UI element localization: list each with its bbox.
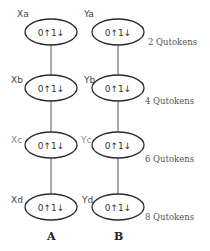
node-label-yc: Yc xyxy=(81,136,91,145)
node-state-yb: 0↑1↓ xyxy=(105,85,132,94)
node-state-xd: 0↑1↓ xyxy=(38,204,65,213)
node-state-yc: 0↑1↓ xyxy=(105,142,132,151)
node-label-xd: Xd xyxy=(11,196,23,205)
node-label-xb: Xb xyxy=(11,76,23,85)
row-label-8: 8 Qutokens xyxy=(145,213,194,222)
node-label-yd: Yd xyxy=(82,196,93,205)
column-label-b: B xyxy=(114,231,123,242)
node-label-xc: Xc xyxy=(11,136,22,145)
node-label-ya: Ya xyxy=(84,10,94,19)
node-state-xb: 0↑1↓ xyxy=(38,85,65,94)
row-label-6: 6 Qutokens xyxy=(145,155,194,164)
row-label-2: 2 Qutokens xyxy=(148,38,197,47)
column-label-a: A xyxy=(47,231,56,242)
node-state-ya: 0↑1↓ xyxy=(105,29,132,38)
node-label-yb: Yb xyxy=(84,76,95,85)
qutoken-diagram: Xa Xb Xc Xd Ya Yb Yc Yd 0↑1↓ 0↑1↓ 0↑1↓ 0… xyxy=(0,0,210,251)
row-label-4: 4 Qutokens xyxy=(145,97,194,106)
node-state-xc: 0↑1↓ xyxy=(38,142,65,151)
node-state-xa: 0↑1↓ xyxy=(38,29,65,38)
node-state-yd: 0↑1↓ xyxy=(105,204,132,213)
node-label-xa: Xa xyxy=(17,10,29,19)
